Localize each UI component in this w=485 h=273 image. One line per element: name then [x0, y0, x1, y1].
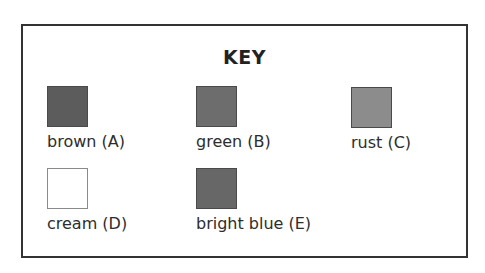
legend-item-rust: rust (C) [351, 87, 485, 152]
legend-label-cream: cream (D) [47, 215, 197, 233]
swatch-bright-blue [196, 168, 237, 209]
swatch-brown [47, 86, 88, 127]
key-title: KEY [23, 46, 466, 68]
swatch-rust [351, 87, 392, 128]
swatch-green [196, 86, 237, 127]
legend-item-green: green (B) [196, 86, 346, 151]
legend-label-rust: rust (C) [351, 134, 485, 152]
swatch-cream [47, 168, 88, 209]
legend-item-cream: cream (D) [47, 168, 197, 233]
key-legend-box: KEY brown (A) green (B) rust (C) cream (… [21, 24, 468, 258]
legend-label-green: green (B) [196, 133, 346, 151]
legend-label-brown: brown (A) [47, 133, 197, 151]
legend-label-bright-blue: bright blue (E) [196, 215, 346, 233]
legend-item-bright-blue: bright blue (E) [196, 168, 346, 233]
legend-item-brown: brown (A) [47, 86, 197, 151]
